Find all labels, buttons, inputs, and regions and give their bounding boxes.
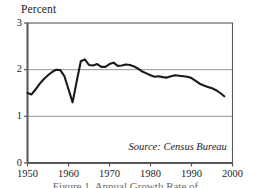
y-tick-label-2: 2: [8, 64, 22, 75]
y-tick-label-3: 3: [8, 18, 22, 29]
x-tick-label-1950: 1950: [8, 169, 48, 180]
line-chart-plot-area: [0, 0, 262, 188]
x-tick-label-1980: 1980: [131, 169, 171, 180]
x-tick-label-2000: 2000: [213, 169, 253, 180]
gridlines-group: [28, 70, 233, 117]
x-tick-label-1960: 1960: [49, 169, 89, 180]
figure-caption: Figure 1. Annual Growth Rate of ...: [0, 180, 262, 188]
chart-figure: Percent 0 1 2 3 1950 1960 1970 1980 1990…: [0, 0, 262, 188]
data-series-line: [28, 59, 225, 102]
source-annotation: Source: Census Bureau: [129, 141, 227, 153]
y-tick-label-0: 0: [8, 158, 22, 169]
y-tick-label-1: 1: [8, 111, 22, 122]
x-tick-label-1990: 1990: [172, 169, 212, 180]
x-tick-label-1970: 1970: [90, 169, 130, 180]
